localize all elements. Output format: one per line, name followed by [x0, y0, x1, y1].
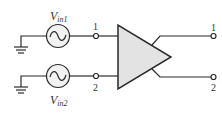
output-terminal-2	[211, 75, 216, 80]
source-1-branch	[14, 25, 118, 54]
output-terminal-2-label: 2	[211, 82, 216, 93]
output-1-wire	[152, 36, 211, 45]
circuit-diagram: Vin1 Vin2 1 2 1 2	[0, 0, 222, 113]
ground-2-icon	[14, 87, 28, 93]
input-terminal-2-label: 2	[93, 82, 98, 93]
source-2-branch	[14, 65, 118, 94]
amplifier-triangle-icon	[118, 25, 171, 89]
input-terminal-1-label: 1	[93, 21, 98, 32]
output-terminal-1	[211, 34, 216, 39]
ground-1-wire	[21, 36, 47, 47]
input-terminal-1	[94, 34, 99, 39]
ground-1-icon	[14, 47, 28, 53]
source-2-label: Vin2	[50, 93, 68, 108]
output-terminal-1-label: 1	[211, 22, 216, 33]
input-terminal-2	[94, 74, 99, 79]
output-2-wire	[152, 69, 211, 77]
ground-2-wire	[21, 76, 47, 87]
source-1-label: Vin1	[50, 9, 68, 24]
